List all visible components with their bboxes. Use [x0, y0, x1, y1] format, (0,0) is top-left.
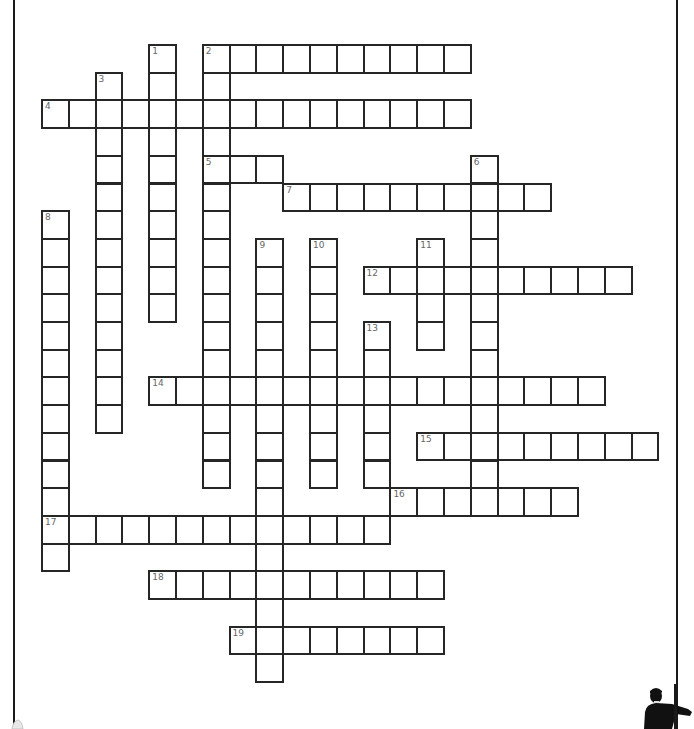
crossword-cell[interactable]	[282, 570, 311, 600]
crossword-cell[interactable]: 2	[202, 44, 231, 74]
crossword-cell[interactable]: 13	[363, 321, 392, 351]
crossword-cell[interactable]	[416, 183, 445, 213]
crossword-cell[interactable]	[41, 460, 70, 490]
crossword-cell[interactable]	[470, 266, 499, 296]
crossword-cell[interactable]	[336, 183, 365, 213]
crossword-cell[interactable]	[255, 404, 284, 434]
crossword-cell[interactable]	[148, 210, 177, 240]
crossword-cell[interactable]	[416, 321, 445, 351]
crossword-cell[interactable]	[229, 376, 258, 406]
crossword-cell[interactable]	[389, 626, 418, 656]
crossword-cell[interactable]	[523, 266, 552, 296]
crossword-cell[interactable]	[202, 183, 231, 213]
crossword-cell[interactable]	[363, 404, 392, 434]
crossword-cell[interactable]: 9	[255, 238, 284, 268]
crossword-cell[interactable]	[389, 183, 418, 213]
crossword-cell[interactable]	[443, 487, 472, 517]
crossword-cell[interactable]	[95, 321, 124, 351]
crossword-cell[interactable]	[68, 99, 97, 129]
crossword-cell[interactable]	[497, 376, 526, 406]
crossword-cell[interactable]	[336, 99, 365, 129]
crossword-cell[interactable]	[470, 460, 499, 490]
crossword-cell[interactable]	[416, 293, 445, 323]
crossword-cell[interactable]	[41, 321, 70, 351]
crossword-cell[interactable]	[550, 487, 579, 517]
crossword-cell[interactable]: 16	[389, 487, 418, 517]
crossword-cell[interactable]	[255, 598, 284, 628]
crossword-cell[interactable]: 3	[95, 72, 124, 102]
crossword-cell[interactable]	[470, 487, 499, 517]
crossword-cell[interactable]	[443, 432, 472, 462]
crossword-cell[interactable]	[41, 238, 70, 268]
crossword-cell[interactable]	[255, 515, 284, 545]
crossword-cell[interactable]	[577, 432, 606, 462]
crossword-cell[interactable]	[255, 570, 284, 600]
crossword-cell[interactable]	[255, 349, 284, 379]
crossword-cell[interactable]	[309, 460, 338, 490]
crossword-cell[interactable]	[363, 99, 392, 129]
crossword-cell[interactable]	[363, 626, 392, 656]
crossword-cell[interactable]	[202, 460, 231, 490]
crossword-cell[interactable]	[470, 349, 499, 379]
crossword-cell[interactable]	[363, 570, 392, 600]
crossword-cell[interactable]	[443, 183, 472, 213]
crossword-cell[interactable]	[309, 626, 338, 656]
crossword-cell[interactable]	[255, 432, 284, 462]
crossword-cell[interactable]	[148, 72, 177, 102]
crossword-cell[interactable]	[497, 432, 526, 462]
crossword-cell[interactable]	[389, 99, 418, 129]
crossword-cell[interactable]	[41, 432, 70, 462]
crossword-cell[interactable]	[255, 543, 284, 573]
crossword-cell[interactable]	[202, 376, 231, 406]
crossword-cell[interactable]	[202, 432, 231, 462]
crossword-cell[interactable]	[309, 404, 338, 434]
crossword-cell[interactable]	[148, 515, 177, 545]
crossword-cell[interactable]	[363, 432, 392, 462]
crossword-cell[interactable]	[202, 349, 231, 379]
crossword-cell[interactable]	[95, 404, 124, 434]
crossword-cell[interactable]	[41, 266, 70, 296]
crossword-cell[interactable]	[95, 210, 124, 240]
crossword-cell[interactable]	[255, 266, 284, 296]
crossword-cell[interactable]: 19	[229, 626, 258, 656]
crossword-cell[interactable]	[309, 99, 338, 129]
crossword-cell[interactable]	[416, 487, 445, 517]
crossword-cell[interactable]	[41, 404, 70, 434]
crossword-cell[interactable]	[523, 432, 552, 462]
crossword-cell[interactable]	[255, 376, 284, 406]
crossword-cell[interactable]	[631, 432, 660, 462]
crossword-cell[interactable]	[363, 376, 392, 406]
crossword-cell[interactable]	[255, 293, 284, 323]
crossword-cell[interactable]: 18	[148, 570, 177, 600]
crossword-cell[interactable]	[41, 543, 70, 573]
crossword-cell[interactable]	[309, 570, 338, 600]
crossword-cell[interactable]	[175, 515, 204, 545]
crossword-cell[interactable]	[41, 293, 70, 323]
crossword-cell[interactable]	[470, 321, 499, 351]
crossword-cell[interactable]	[336, 570, 365, 600]
crossword-cell[interactable]	[95, 376, 124, 406]
crossword-cell[interactable]	[523, 487, 552, 517]
crossword-cell[interactable]	[389, 570, 418, 600]
crossword-cell[interactable]	[309, 432, 338, 462]
crossword-cell[interactable]	[255, 487, 284, 517]
crossword-cell[interactable]	[255, 653, 284, 683]
crossword-cell[interactable]	[497, 266, 526, 296]
crossword-cell[interactable]	[121, 515, 150, 545]
crossword-cell[interactable]	[416, 99, 445, 129]
crossword-cell[interactable]	[95, 238, 124, 268]
crossword-cell[interactable]	[470, 238, 499, 268]
crossword-cell[interactable]	[175, 570, 204, 600]
crossword-cell[interactable]	[148, 99, 177, 129]
crossword-cell[interactable]	[95, 349, 124, 379]
crossword-cell[interactable]	[389, 376, 418, 406]
crossword-cell[interactable]	[363, 44, 392, 74]
crossword-cell[interactable]: 1	[148, 44, 177, 74]
crossword-cell[interactable]	[550, 376, 579, 406]
crossword-cell[interactable]	[443, 99, 472, 129]
crossword-cell[interactable]	[95, 183, 124, 213]
crossword-cell[interactable]	[363, 515, 392, 545]
crossword-cell[interactable]	[363, 183, 392, 213]
crossword-cell[interactable]	[282, 99, 311, 129]
crossword-cell[interactable]	[202, 404, 231, 434]
